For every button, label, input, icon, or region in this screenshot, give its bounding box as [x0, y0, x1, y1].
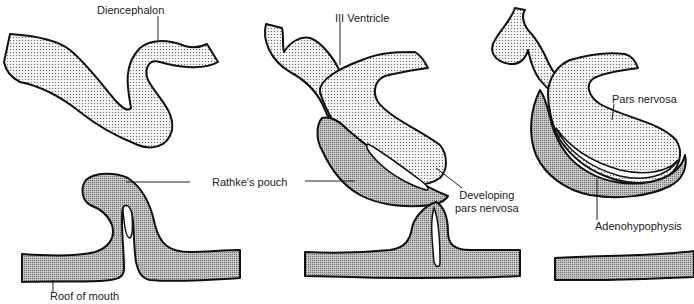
stage1-pouch-cavity	[123, 205, 133, 238]
stage3-roof-of-mouth-shape	[555, 251, 694, 280]
label-developing-pars-nervosa: Developing pars nervosa	[455, 189, 519, 215]
label-adenohypophysis: Adenohypophysis	[595, 220, 682, 233]
label-roof-of-mouth: Roof of mouth	[50, 290, 119, 303]
label-developing-line2: pars nervosa	[455, 202, 519, 214]
label-developing-line1: Developing	[459, 189, 514, 201]
label-pars-nervosa: Pars nervosa	[612, 93, 677, 106]
stage-3	[492, 8, 694, 280]
label-diencephalon: Diencephalon	[97, 4, 164, 17]
label-rathkes-pouch: Rathke's pouch	[212, 176, 287, 189]
pituitary-development-diagram	[0, 0, 694, 304]
stage-2	[265, 22, 520, 278]
stage1-diencephalon-shape	[4, 34, 218, 147]
label-third-ventricle: III Ventricle	[335, 12, 389, 25]
stage-1	[4, 16, 240, 293]
